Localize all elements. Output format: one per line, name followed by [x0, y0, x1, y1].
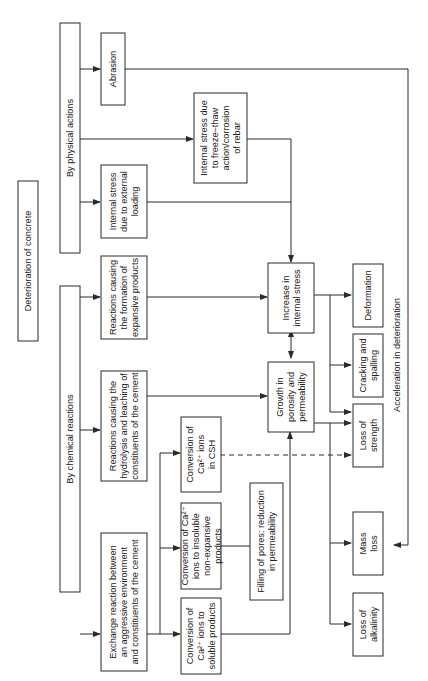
physical-actions-box: By physical actions [60, 23, 80, 253]
porosity-box: Growth inporosity andpermeability [268, 362, 314, 432]
hydrolysis-box: Reactions causing thehydrolysis and leac… [101, 371, 147, 481]
exchange-reaction-box: Exchange reaction betweenan aggressive e… [101, 533, 147, 671]
deformation-box: Deformation [353, 264, 383, 327]
external-loading-box: Internal stressdue to externalloading [101, 165, 147, 238]
alkalinity-box: Loss ofalkalinity [353, 593, 383, 656]
freeze-thaw-box: Internal stress dueto freeze–thawaction/… [194, 93, 247, 183]
title-box: Deterioration of concrete [18, 181, 38, 341]
deterioration-diagram: Deterioration of concreteBy physical act… [0, 0, 428, 681]
strength-box: Loss ofstrength [353, 404, 383, 467]
strength-label: Loss ofstrength [358, 419, 379, 452]
chemical-reactions-label: By chemical reactions [65, 394, 75, 484]
mass-loss-label: Massloss [358, 532, 379, 554]
expansive-products-box: Reactions causingthe formation ofexpansi… [101, 256, 147, 339]
internal-stress-box: Increase ininternal stress [268, 263, 314, 333]
conversion-csh-box: Conversion ofCa²⁺ ionsin CSH [181, 417, 221, 492]
deformation-label: Deformation [363, 270, 373, 320]
abrasion-box: Abrasion [101, 33, 125, 105]
exchange-reaction-label: Exchange reaction betweenan aggressive e… [108, 539, 140, 665]
cracking-box: Cracking andspalling [353, 334, 383, 397]
hydrolysis-label: Reactions causing thehydrolysis and leac… [108, 372, 140, 480]
porosity-label: Growth inporosity andpermeability [275, 372, 307, 422]
conversion-soluble-box: Conversion ofCa²⁺ ions tosoluble product… [181, 598, 221, 674]
alkalinity-label: Loss ofalkalinity [358, 606, 379, 642]
conversion-insoluble-box: Conversion of Ca²⁺ions to insolublenon-e… [180, 503, 223, 589]
conversion-soluble-label: Conversion ofCa²⁺ ions tosoluble product… [185, 602, 217, 669]
physical-actions-label: By physical actions [65, 99, 75, 178]
filling-pores-box: Filling of pores: reductionin permeabili… [250, 483, 283, 600]
expansive-products-label: Reactions causingthe formation ofexpansi… [108, 258, 140, 338]
abrasion-label: Abrasion [108, 51, 118, 87]
mass-loss-box: Massloss [353, 512, 383, 575]
internal-stress-label: Increase ininternal stress [281, 269, 302, 327]
acceleration-label: Acceleration in deterioration [392, 298, 402, 412]
title-label: Deterioration of concrete [23, 211, 33, 312]
chemical-reactions-box: By chemical reactions [60, 286, 80, 592]
